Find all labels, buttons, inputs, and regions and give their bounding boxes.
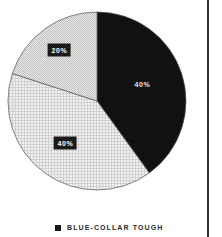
legend-label: BLUE-COLLAR TOUGH: [67, 223, 163, 233]
slice-label-upper-left: 20%: [48, 44, 71, 57]
legend-swatch-icon: [55, 225, 61, 231]
chart-legend: BLUE-COLLAR TOUGH: [55, 223, 163, 233]
vertical-divider: [207, 0, 209, 237]
pie-chart-graphic: [0, 0, 222, 237]
slice-label-lower-left: 40%: [54, 137, 77, 150]
pie-chart: 40% 40% 20% BLUE-COLLAR TOUGH: [0, 0, 222, 237]
slice-label-blue-collar-tough: 40%: [131, 78, 154, 91]
